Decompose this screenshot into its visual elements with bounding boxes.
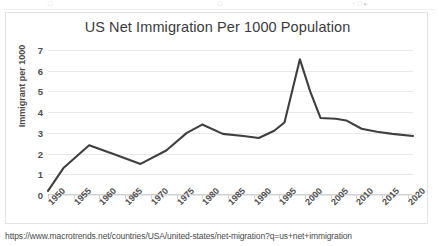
toolbar-ghost-icon-3: ↑ □ ▸ — [352, 0, 368, 8]
y-axis-title: Immigrant per 1000 — [17, 26, 27, 146]
cut-off-toolbar-strip: □ □ ↑ □ ▸ — [0, 0, 439, 11]
toolbar-ghost-icon-2: □ — [218, 0, 222, 8]
y-tick-label-4: 4 — [38, 107, 43, 118]
source-url-caption: https://www.macrotrends.net/countries/US… — [5, 231, 434, 241]
plot-area: 01234567 1950195519601965197019751980198… — [48, 50, 413, 195]
toolbar-divider — [4, 9, 435, 10]
line-series-immigration — [48, 50, 413, 195]
y-tick-label-1: 1 — [38, 169, 43, 180]
y-tick-label-0: 0 — [38, 190, 43, 201]
y-tick-label-2: 2 — [38, 148, 43, 159]
y-tick-label-5: 5 — [38, 86, 43, 97]
y-tick-label-6: 6 — [38, 65, 43, 76]
y-tick-label-7: 7 — [38, 45, 43, 56]
y-tick-label-3: 3 — [38, 127, 43, 138]
chart-card: US Net Immigration Per 1000 Population I… — [5, 12, 428, 224]
toolbar-ghost-icon-1: □ — [48, 0, 52, 8]
chart-title: US Net Immigration Per 1000 Population — [6, 19, 428, 35]
